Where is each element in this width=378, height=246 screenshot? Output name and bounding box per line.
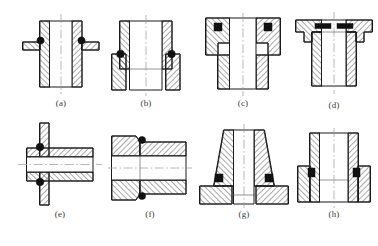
figure-e: [18, 122, 102, 206]
figure-a: [20, 12, 102, 96]
figure-f-right-tube-upper: [140, 142, 186, 156]
figure-h-tube-wall-right: [348, 133, 358, 202]
figure-h-oring-right: [353, 168, 360, 177]
figure-a-oring-left: [37, 37, 44, 44]
figure-e-oring-upper: [36, 143, 44, 151]
figure-g: [198, 124, 290, 208]
figure-g-oring-right: [265, 174, 273, 182]
figure-c-body-left: [218, 55, 230, 89]
figure-a-sleeve-wall-left: [40, 21, 50, 87]
figure-c-body-right: [256, 55, 268, 89]
figure-b-caption: (b): [108, 98, 184, 108]
figure-f-left-tube-lower: [112, 180, 140, 200]
figure-g-base-flange-right: [256, 186, 288, 204]
figure-c-oring-left: [214, 23, 222, 31]
figure-g-oring-left: [215, 174, 223, 182]
figure-c: [200, 13, 286, 96]
figure-h-oring-left: [308, 168, 315, 177]
figure-f-caption: (f): [108, 209, 192, 219]
figure-a-caption: (a): [20, 98, 102, 108]
figure-a-flange-right: [82, 42, 99, 50]
figure-a-flange-left: [23, 42, 40, 50]
figure-b-upper-right: [162, 21, 172, 69]
figure-b-oring-left: [117, 50, 125, 58]
figure-g-base-flange-left: [200, 186, 232, 204]
figure-b-oring-right: [168, 50, 176, 58]
figure-f-left-tube-upper: [112, 136, 140, 156]
figure-f-right-tube-lower: [140, 180, 186, 194]
figure-c-caption: (c): [200, 98, 286, 108]
figure-d-oring-left: [315, 24, 331, 29]
figure-b: [108, 14, 184, 96]
figure-a-oring-right: [78, 37, 85, 44]
figure-d-oring-right: [337, 24, 353, 29]
figure-b-upper-left: [120, 21, 130, 69]
figure-d-wall-right: [346, 32, 356, 86]
figure-c-oring-right: [264, 23, 272, 31]
figure-e-oring-lower: [36, 178, 44, 186]
figure-h-caption: (h): [294, 209, 374, 219]
figure-d-wall-left: [312, 32, 322, 86]
figure-f-oring-upper: [138, 136, 145, 143]
figure-a-sleeve-wall-right: [72, 21, 82, 87]
figure-d: [292, 12, 376, 94]
figure-d-caption: (d): [292, 100, 376, 110]
figure-h-tube-wall-left: [310, 133, 320, 202]
figure-sheet: (a) (b): [0, 0, 378, 246]
figure-h: [294, 128, 374, 208]
figure-f: [108, 130, 192, 206]
figure-e-caption: (e): [18, 209, 102, 219]
figure-g-caption: (g): [198, 209, 290, 219]
figure-f-oring-lower: [138, 192, 145, 199]
